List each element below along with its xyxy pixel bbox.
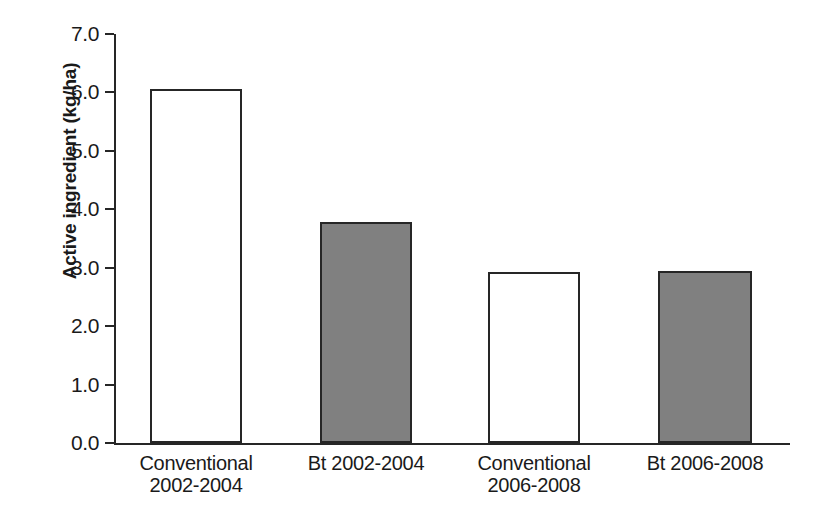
y-axis-tick: 4.0 xyxy=(105,208,114,210)
bar xyxy=(658,271,752,443)
y-axis-tick: 5.0 xyxy=(105,150,114,152)
y-axis-line xyxy=(114,34,116,443)
bar-chart-figure: Active ingredient (kg/ha) 0.01.02.03.04.… xyxy=(0,0,816,519)
y-axis-tick-label: 1.0 xyxy=(71,373,99,397)
x-axis-label-line: 2006-2008 xyxy=(424,474,644,496)
plot-area: 0.01.02.03.04.05.06.07.0 Conventional200… xyxy=(114,34,790,443)
bar xyxy=(320,222,412,443)
y-axis-tick-label: 5.0 xyxy=(71,139,99,163)
y-axis-tick: 3.0 xyxy=(105,267,114,269)
y-axis-tick-label: 7.0 xyxy=(71,22,99,46)
y-axis-tick-label: 2.0 xyxy=(71,314,99,338)
bar xyxy=(488,272,580,443)
y-axis-tick: 7.0 xyxy=(105,33,114,35)
y-axis-tick: 0.0 xyxy=(105,442,114,444)
x-axis-label-line: Bt 2006-2008 xyxy=(595,452,815,474)
y-axis-tick-label: 6.0 xyxy=(71,80,99,104)
y-axis-title: Active ingredient (kg/ha) xyxy=(59,0,81,361)
y-axis-tick: 2.0 xyxy=(105,325,114,327)
y-axis-tick-label: 3.0 xyxy=(71,256,99,280)
x-axis-label-line: 2002-2004 xyxy=(86,474,306,496)
x-axis-line xyxy=(114,443,790,445)
bar xyxy=(150,89,242,443)
y-axis-tick: 6.0 xyxy=(105,91,114,93)
y-axis-tick: 1.0 xyxy=(105,384,114,386)
x-axis-label: Bt 2006-2008 xyxy=(595,452,815,474)
y-axis-tick-label: 4.0 xyxy=(71,197,99,221)
